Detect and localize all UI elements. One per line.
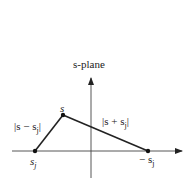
diagram-title: s-plane (73, 59, 105, 70)
sum-end: | (127, 115, 129, 127)
sj-sub: j (34, 161, 36, 170)
diff-end: | (39, 120, 41, 132)
segment-diff-label: |s − sj| (14, 121, 41, 135)
diff-main: |s − s (14, 120, 36, 132)
s-plane-diagram: s-plane s |s − sj| |s + sj| sj − sj (0, 0, 195, 191)
negsj-main: − s (139, 153, 152, 165)
point-neg-sj-label: − sj (139, 154, 154, 168)
negsj-sub: j (152, 159, 154, 168)
segment-sum-label: |s + sj| (102, 116, 129, 130)
point-s-label: s (60, 103, 64, 114)
point-sj (33, 149, 37, 153)
point-sj-label: sj (30, 156, 37, 170)
sum-main: |s + s (102, 115, 124, 127)
